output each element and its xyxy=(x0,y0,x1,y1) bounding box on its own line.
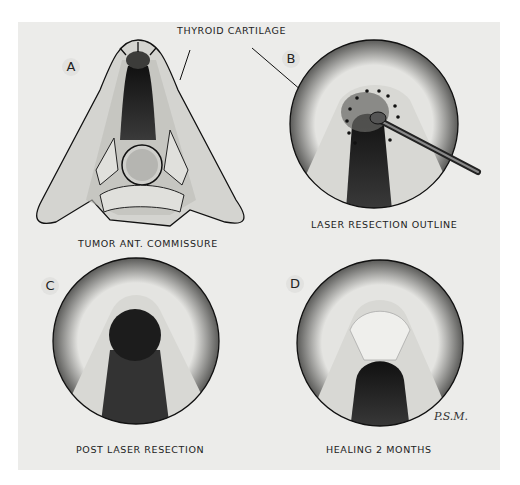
panel-c-caption: POST LASER RESECTION xyxy=(76,444,204,455)
panel-b-drawing xyxy=(290,40,478,210)
panel-a-letter: A xyxy=(62,58,80,76)
panel-d-drawing xyxy=(297,260,463,430)
panel-b-letter: B xyxy=(282,50,300,68)
panel-c-letter: C xyxy=(41,277,59,295)
panel-c-drawing xyxy=(53,258,219,430)
thyroid-cartilage-label: THYROID CARTILAGE xyxy=(177,25,286,36)
artist-signature: P.S.M. xyxy=(434,410,468,423)
panel-d-letter: D xyxy=(286,275,304,293)
panel-d-caption: HEALING 2 MONTHS xyxy=(326,444,432,455)
panel-a-caption: TUMOR ANT. COMMISSURE xyxy=(78,238,218,249)
panel-a-drawing xyxy=(37,40,330,226)
panel-b-caption: LASER RESECTION OUTLINE xyxy=(311,219,457,230)
